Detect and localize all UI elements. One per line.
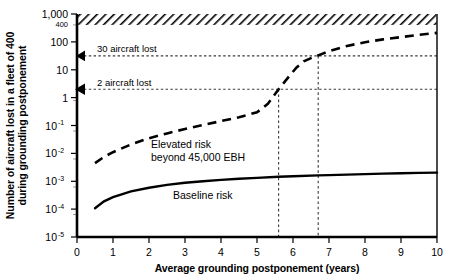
y-tick-label-1000: 1,000 (42, 8, 68, 20)
y-axis-title-line2: during grounding postponement (16, 45, 28, 205)
risk-postponement-log-chart: 1,000 400 100 10 1 10 -1 10 -2 10 -3 10 … (0, 0, 453, 278)
y-tick-base-1e-4: 10 (45, 203, 57, 215)
y-tick-base-1e-1: 10 (45, 120, 57, 132)
annotation-30-aircraft-lost: 30 aircraft lost (97, 43, 157, 54)
annotation-2-aircraft-lost: 2 aircraft lost (97, 77, 152, 88)
y-tick-label-1e-4: 10 -4 (45, 203, 64, 216)
y-tick-exp-1e-4: -4 (58, 203, 64, 210)
x-tick-label-7: 7 (326, 246, 332, 258)
y-tick-exp-1e-5: -5 (58, 231, 64, 238)
y-tick-label-10: 10 (56, 64, 68, 76)
y-tick-base-1e-2: 10 (45, 147, 57, 159)
annotation-elevated-risk-line1: Elevated risk (151, 138, 212, 150)
fleet-size-hatched-band (78, 14, 437, 25)
x-axis-title: Average grounding postponement (years) (155, 262, 360, 274)
x-tick-label-3: 3 (182, 246, 188, 258)
x-tick-label-4: 4 (218, 246, 224, 258)
x-tick-label-8: 8 (362, 246, 368, 258)
x-tick-label-2: 2 (146, 246, 152, 258)
y-tick-label-1e-1: 10 -1 (45, 119, 64, 132)
y-tick-label-1: 1 (62, 92, 68, 104)
y-axis-title-line1: Number of aircraft lost in a fleet of 40… (4, 32, 16, 220)
chart-figure: 1,000 400 100 10 1 10 -1 10 -2 10 -3 10 … (0, 0, 453, 278)
y-tick-label-1e-3: 10 -3 (45, 175, 64, 188)
annotation-elevated-risk-line2: beyond 45,000 EBH (151, 151, 245, 163)
y-tick-base-1e-3: 10 (45, 175, 57, 187)
x-tick-label-9: 9 (398, 246, 404, 258)
x-tick-label-0: 0 (74, 246, 80, 258)
x-tick-label-10: 10 (431, 246, 443, 258)
y-tick-exp-1e-1: -1 (58, 119, 64, 126)
y-tick-base-1e-5: 10 (45, 231, 57, 243)
y-tick-label-1e-5: 10 -5 (45, 231, 64, 244)
y-tick-exp-1e-3: -3 (58, 175, 64, 182)
y-tick-label-1e-2: 10 -2 (45, 147, 64, 160)
annotation-baseline-risk: Baseline risk (173, 189, 233, 201)
x-tick-label-6: 6 (290, 246, 296, 258)
x-tick-label-5: 5 (254, 246, 260, 258)
y-tick-label-400: 400 (55, 20, 68, 29)
y-tick-exp-1e-2: -2 (58, 147, 64, 154)
y-tick-label-100: 100 (50, 36, 68, 48)
x-tick-label-1: 1 (110, 246, 116, 258)
